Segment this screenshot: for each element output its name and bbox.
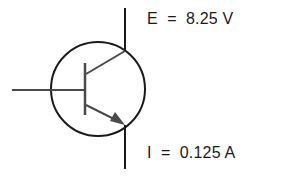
collector-connection bbox=[86, 51, 125, 74]
voltage-label: E = 8.25 V bbox=[147, 10, 233, 28]
emitter-arrow-icon bbox=[110, 112, 125, 125]
transistor-schematic bbox=[0, 0, 281, 183]
current-label: I = 0.125 A bbox=[147, 144, 235, 162]
